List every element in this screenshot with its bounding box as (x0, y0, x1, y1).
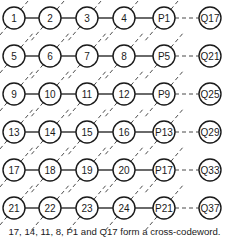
diagonal-dash (94, 185, 106, 199)
node-label: P1 (158, 13, 171, 24)
diagonal-dash (171, 33, 183, 47)
node-label: 4 (121, 13, 127, 24)
node-label: P9 (158, 89, 171, 100)
data-node: 12 (113, 83, 135, 105)
diagonal-dash (57, 33, 69, 47)
diagonal-dash (131, 0, 143, 9)
check-node: Q21 (199, 45, 221, 67)
diagonal-dash (145, 27, 157, 41)
check-node: Q29 (199, 121, 221, 143)
diagonal-dash (0, 65, 7, 79)
node-label: 21 (8, 203, 20, 214)
data-node: 10 (39, 83, 61, 105)
node-label: 23 (81, 203, 93, 214)
diagonal-dash (31, 141, 43, 155)
data-node: 14 (39, 121, 61, 143)
diagonal-dash (57, 71, 69, 85)
diagonal-dash (68, 179, 80, 193)
data-node: 8 (113, 45, 135, 67)
diagonal-dash (94, 147, 106, 161)
node-label: 7 (84, 51, 90, 62)
node-label: 2 (47, 13, 53, 24)
node-label: 15 (81, 127, 93, 138)
node-label: 6 (47, 51, 53, 62)
node-label: P21 (155, 203, 173, 214)
diagonal-dash (31, 65, 43, 79)
data-node: 20 (113, 159, 135, 181)
node-label: 18 (44, 165, 56, 176)
diagonal-dash (57, 109, 69, 123)
data-node: 2 (39, 7, 61, 29)
diagonal-dash (21, 0, 33, 9)
diagonal-dash (131, 185, 143, 199)
node-label: 8 (121, 51, 127, 62)
parity-node: P17 (153, 159, 175, 181)
diagonal-dash (31, 179, 43, 193)
diagonal-dash (21, 109, 33, 123)
diagonal-dash (68, 65, 80, 79)
code-lattice-diagram: 1234P1Q175678P5Q219101112P9Q2513141516P1… (0, 0, 229, 243)
data-node: 1 (3, 7, 25, 29)
diagonal-dash (105, 65, 117, 79)
diagonal-dash (0, 141, 7, 155)
parity-node: P5 (153, 45, 175, 67)
parity-node: P9 (153, 83, 175, 105)
data-node: 6 (39, 45, 61, 67)
data-node: 23 (76, 197, 98, 219)
diagonal-dashed-lines (0, 0, 183, 231)
diagonal-dash (131, 71, 143, 85)
check-node: Q37 (199, 197, 221, 219)
diagonal-dash (171, 0, 183, 9)
diagonal-dash (145, 179, 157, 193)
node-label: 22 (44, 203, 56, 214)
data-node: 11 (76, 83, 98, 105)
node-label: 5 (11, 51, 17, 62)
diagonal-dash (0, 27, 7, 41)
node-label: Q25 (201, 89, 220, 100)
diagonal-dash (131, 109, 143, 123)
data-node: 15 (76, 121, 98, 143)
diagonal-dash (0, 103, 7, 117)
node-label: 19 (81, 165, 93, 176)
check-node: Q25 (199, 83, 221, 105)
diagonal-dash (94, 33, 106, 47)
node-label: 1 (11, 13, 17, 24)
node-label: 17 (8, 165, 20, 176)
node-label: Q21 (201, 51, 220, 62)
node-label: Q17 (201, 13, 220, 24)
data-node: 3 (76, 7, 98, 29)
data-node: 17 (3, 159, 25, 181)
diagonal-dash (21, 147, 33, 161)
diagonal-dash (105, 103, 117, 117)
diagonal-dash (171, 185, 183, 199)
diagonal-dash (21, 71, 33, 85)
node-label: P13 (155, 127, 173, 138)
data-node: 24 (113, 197, 135, 219)
node-label: 13 (8, 127, 20, 138)
node-label: Q37 (201, 203, 220, 214)
caption: 17, 14, 11, 8, P1 and Q17 form a cross-c… (0, 226, 229, 237)
data-node: 18 (39, 159, 61, 181)
node-label: 9 (11, 89, 17, 100)
node-label: P5 (158, 51, 171, 62)
data-node: 19 (76, 159, 98, 181)
data-node: 5 (3, 45, 25, 67)
diagonal-dash (171, 147, 183, 161)
diagonal-dash (94, 109, 106, 123)
node-label: 20 (118, 165, 130, 176)
diagonal-dash (68, 103, 80, 117)
data-node: 7 (76, 45, 98, 67)
data-node: 22 (39, 197, 61, 219)
node-label: 11 (82, 89, 93, 100)
parity-node: P13 (153, 121, 175, 143)
check-node: Q33 (199, 159, 221, 181)
data-node: 16 (113, 121, 135, 143)
diagonal-dash (94, 71, 106, 85)
diagonal-dash (57, 147, 69, 161)
diagonal-dash (0, 179, 7, 193)
diagonal-dash (94, 0, 106, 9)
node-label: 24 (118, 203, 130, 214)
node-label: Q29 (201, 127, 220, 138)
data-node: 4 (113, 7, 135, 29)
check-node: Q17 (199, 7, 221, 29)
